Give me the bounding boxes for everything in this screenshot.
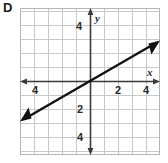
- x-axis-name-label: x: [146, 66, 153, 78]
- y-tick-label-neg2: 2: [77, 103, 83, 115]
- graph-svg: y x 4 2 4 4 2 4: [20, 8, 160, 155]
- panel-letter: D: [3, 1, 12, 14]
- x-tick-label-4: 4: [143, 84, 150, 96]
- y-tick-label-neg4: 4: [77, 131, 84, 143]
- x-tick-label-2: 2: [115, 84, 121, 96]
- coordinate-grid-graph: y x 4 2 4 4 2 4: [20, 8, 160, 155]
- x-tick-label-neg4: 4: [32, 84, 39, 96]
- y-axis-name-label: y: [93, 12, 100, 24]
- y-tick-label-4: 4: [76, 20, 83, 32]
- graph-figure: D: [0, 0, 168, 163]
